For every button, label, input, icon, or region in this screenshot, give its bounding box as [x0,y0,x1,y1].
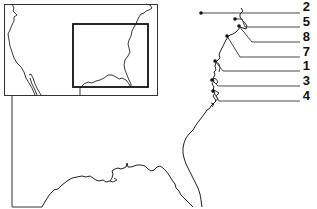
site-label-2: 2 [296,0,310,13]
site-label-5: 5 [296,15,310,28]
site-label-7: 7 [296,45,310,58]
main-gulf-coastline [42,163,193,207]
site-marker-4 [211,89,215,93]
site-label-4: 4 [296,89,310,102]
leader-line-4 [213,91,300,101]
site-marker-8 [237,24,241,28]
site-marker-7 [225,34,229,38]
site-label-3: 3 [296,74,310,87]
site-location-map: 2 5 8 7 1 3 4 [0,0,317,209]
inset-gulf-coastline [80,75,131,95]
site-label-1: 1 [296,59,310,72]
site-marker-2 [199,11,203,15]
map-graphic [0,0,317,209]
site-marker-1 [213,59,217,63]
leader-line-1 [215,61,300,71]
site-marker-5 [233,17,237,21]
inset-map-frame [5,5,158,96]
main-map-western-boundary [12,96,42,207]
site-label-8: 8 [296,30,310,43]
inset-baja-peninsula [29,74,41,95]
southeast-highlight-box [73,24,148,87]
site-marker-3 [210,78,214,82]
leader-line-7 [227,36,300,57]
leader-line-8 [239,26,300,42]
leader-lines [201,13,300,101]
leader-line-3 [212,80,300,86]
main-east-coastline [183,8,247,207]
